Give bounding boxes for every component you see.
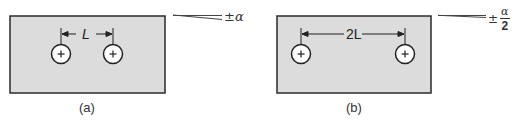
hole-b-1 [292, 45, 311, 64]
diagram-canvas [0, 0, 517, 123]
fraction: α 2 [500, 6, 509, 32]
plus-minus-symbol: ± [224, 9, 235, 24]
plus-minus-symbol: ± [488, 12, 498, 26]
dimension-label-b: 2L [346, 26, 362, 42]
alpha-symbol: α [235, 9, 244, 24]
hole-a-1 [52, 45, 71, 64]
caption-a: (a) [79, 100, 95, 115]
fraction-numerator: α [500, 6, 509, 19]
hole-a-2 [104, 45, 123, 64]
angle-tolerance-label-b: ± α 2 [488, 6, 510, 32]
angle-tolerance-lines-b [438, 15, 486, 17]
caption-b: (b) [346, 100, 362, 115]
dimension-label-a: L [82, 26, 90, 42]
fraction-denominator: 2 [501, 19, 508, 32]
angle-tolerance-label-a: ±α [224, 9, 244, 24]
hole-b-2 [396, 45, 415, 64]
angle-tolerance-lines-a [173, 15, 222, 20]
